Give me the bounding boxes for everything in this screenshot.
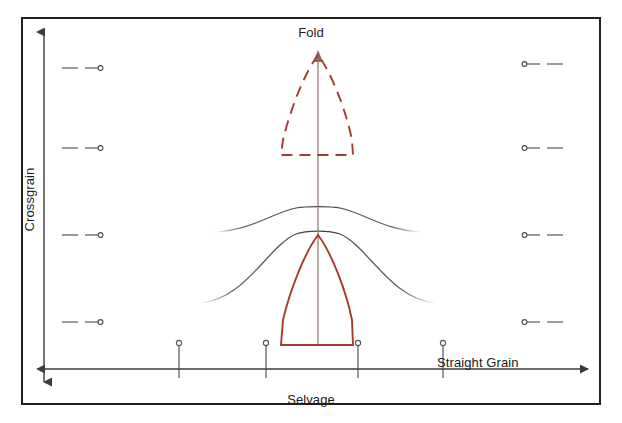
selvage-label: Selvage <box>0 392 622 407</box>
right-thread-marks <box>522 62 563 325</box>
straight-grain-label: Straight Grain <box>437 355 519 370</box>
mark-right-4 <box>522 320 563 325</box>
pin-3 <box>355 340 360 378</box>
mark-right-3 <box>522 233 563 238</box>
mark-left-3 <box>62 233 103 238</box>
pin-1 <box>176 340 181 378</box>
left-thread-marks <box>62 66 103 325</box>
diagram-frame <box>22 18 600 404</box>
mark-left-1 <box>62 66 103 71</box>
mark-left-2 <box>62 146 103 151</box>
mark-right-2 <box>522 146 563 151</box>
mark-left-4 <box>62 320 103 325</box>
diagram-canvas: Fold Crossgrain Straight Grain Selvage <box>0 0 622 423</box>
fold-label: Fold <box>0 25 622 40</box>
fabric-layout-diagram <box>0 0 622 423</box>
mark-right-1 <box>522 62 563 67</box>
pin-2 <box>263 340 268 378</box>
pin-group <box>176 340 445 378</box>
pattern-piece-dashed <box>281 55 353 155</box>
pattern-piece-solid <box>281 235 353 345</box>
crossgrain-label: Crossgrain <box>22 150 37 250</box>
